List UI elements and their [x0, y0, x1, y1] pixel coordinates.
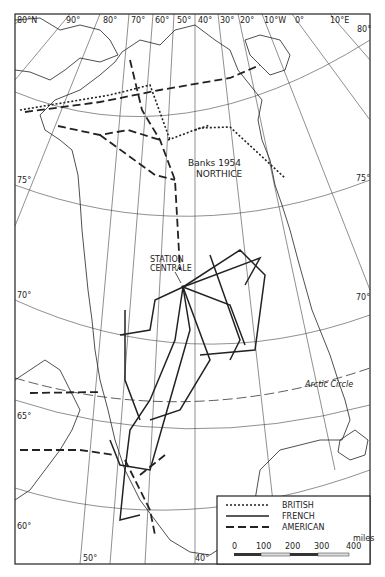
svg-text:10°E: 10°E — [330, 16, 349, 25]
station-label-line2: CENTRALE — [150, 264, 192, 273]
svg-text:30°: 30° — [220, 16, 234, 25]
svg-text:400: 400 — [346, 542, 361, 551]
svg-text:100: 100 — [256, 542, 271, 551]
british-routes — [20, 85, 285, 178]
svg-text:80°: 80° — [357, 25, 371, 34]
greenland-expedition-map: Banks 1954 NORTHICE STATION CENTRALE Arc… — [0, 0, 385, 577]
svg-text:80°: 80° — [103, 16, 117, 25]
bottom-longitude-labels: 50° 40° — [83, 554, 209, 563]
svg-text:75°: 75° — [356, 174, 370, 183]
american-routes — [20, 60, 260, 535]
parallels — [15, 40, 370, 510]
right-latitude-labels: 75° 70° — [356, 174, 370, 302]
legend-french-label: FRENCH — [282, 512, 315, 521]
northice-label: NORTHICE — [196, 169, 243, 179]
station-label-line1: STATION — [150, 255, 184, 264]
svg-text:50°: 50° — [83, 554, 97, 563]
svg-text:60°: 60° — [17, 522, 31, 531]
svg-text:75°: 75° — [17, 176, 31, 185]
map-frame — [15, 14, 370, 564]
station-centrale-marker — [181, 285, 185, 289]
svg-text:200: 200 — [285, 542, 300, 551]
svg-text:70°: 70° — [356, 293, 370, 302]
svg-text:90°: 90° — [66, 16, 80, 25]
legend-american-label: AMERICAN — [282, 523, 324, 532]
arctic-circle-label: Arctic Circle — [304, 380, 353, 389]
meridians — [15, 14, 370, 564]
svg-text:10°W: 10°W — [264, 16, 286, 25]
svg-text:20°: 20° — [240, 16, 254, 25]
svg-text:0: 0 — [232, 542, 237, 551]
baffin-coastline — [15, 360, 80, 500]
svg-text:40°: 40° — [198, 16, 212, 25]
svg-text:300: 300 — [314, 542, 329, 551]
svg-text:70°: 70° — [131, 16, 145, 25]
banks-1954-label: Banks 1954 — [188, 158, 241, 168]
svg-text:0°: 0° — [295, 16, 304, 25]
svg-text:50°: 50° — [177, 16, 191, 25]
svg-text:65°: 65° — [17, 412, 31, 421]
french-routes — [110, 250, 265, 520]
svg-text:60°: 60° — [155, 16, 169, 25]
station-centrale-pointer — [175, 272, 181, 283]
canadian-islands-coastline — [15, 18, 118, 80]
svg-text:80°N: 80°N — [17, 16, 37, 25]
svg-text:70°: 70° — [17, 291, 31, 300]
legend-british-label: BRITISH — [282, 501, 314, 510]
legend: BRITISH FRENCH AMERICAN miles 0 100 200 … — [217, 496, 374, 564]
iceland-coastline — [338, 430, 368, 460]
left-latitude-labels: 75° 70° 65° 60° — [17, 176, 31, 531]
svg-text:40°: 40° — [195, 554, 209, 563]
